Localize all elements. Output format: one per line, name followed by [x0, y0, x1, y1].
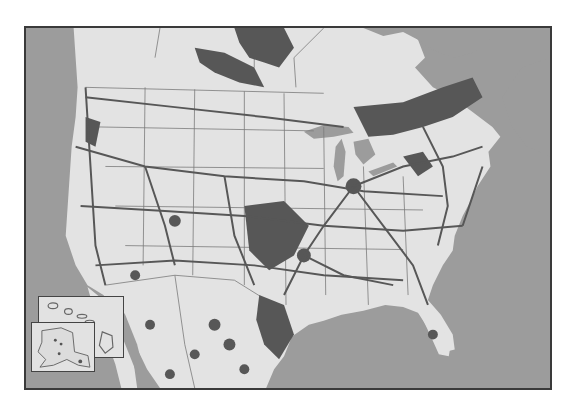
alaska-inset: Alaska — [31, 322, 95, 372]
map-frame: Hawaii Alaska — [24, 26, 552, 390]
map-title: North America network map — [0, 0, 1, 1]
alaska-map — [32, 323, 94, 371]
